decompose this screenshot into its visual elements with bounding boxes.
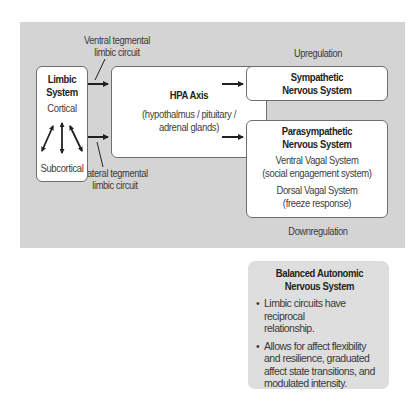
downregulation-label: Downregulation <box>265 225 371 237</box>
hpa-description-1: (hypothalmus / pituitary / <box>123 108 255 121</box>
upregulation-label: Upregulation <box>265 47 371 59</box>
balanced-title-1: Balanced Autonomic <box>265 267 374 280</box>
parasympathetic-box: Parasympathetic Nervous System Ventral V… <box>246 120 388 218</box>
bullet-2-line-2: and resilience, graduated <box>264 352 383 365</box>
cortical-label: Cortical <box>41 102 84 115</box>
dorsal-vagal-title: Dorsal Vagal System <box>257 184 377 197</box>
limbic-title-1: Limbic <box>41 73 84 86</box>
bullet-2-line-3: affect state transitions, and <box>264 365 383 378</box>
balanced-title-2: Nervous System <box>265 280 374 293</box>
balanced-bullet-list: • Limbic circuits have reciprocal relati… <box>256 297 383 390</box>
hpa-axis-box: HPA Axis (hypothalmus / pituitary / adre… <box>111 66 267 158</box>
bullet-item: • Limbic circuits have reciprocal relati… <box>256 297 383 335</box>
ventral-vagal-desc: (social engagement system) <box>257 167 377 180</box>
hpa-description-2: adrenal glands) <box>123 121 255 134</box>
limbic-title-2: System <box>41 86 84 99</box>
bullet-item: • Allows for affect flexibility and resi… <box>256 340 383 390</box>
ventral-circuit-line-1: Ventral tegmental <box>69 34 166 46</box>
parasympathetic-title-2: Nervous System <box>257 138 377 151</box>
bullet-icon: • <box>256 297 259 310</box>
bullet-2-line-4: modulated intensity. <box>264 377 383 390</box>
bullet-1-line-2: relationship. <box>264 322 383 335</box>
bullet-1-line-1: Limbic circuits have reciprocal <box>264 297 383 322</box>
ventral-circuit-line-2: limbic circuit <box>69 46 166 58</box>
dorsal-vagal-desc: (freeze response) <box>257 197 377 210</box>
subcortical-label: Subcortical <box>39 162 85 175</box>
hpa-title: HPA Axis <box>123 89 255 102</box>
bullet-icon: • <box>256 340 259 353</box>
ventral-circuit-label: Ventral tegmental limbic circuit <box>69 34 166 58</box>
sympathetic-title-1: Sympathetic <box>257 71 377 84</box>
sympathetic-title-2: Nervous System <box>257 84 377 97</box>
balanced-ans-box: Balanced Autonomic Nervous System • Limb… <box>248 261 389 389</box>
parasympathetic-title-1: Parasympathetic <box>257 125 377 138</box>
ventral-vagal-title: Ventral Vagal System <box>257 154 377 167</box>
sympathetic-box: Sympathetic Nervous System <box>246 66 388 101</box>
bullet-2-line-1: Allows for affect flexibility <box>264 340 383 353</box>
limbic-system-box: Limbic System Cortical Subcortical <box>36 66 88 182</box>
